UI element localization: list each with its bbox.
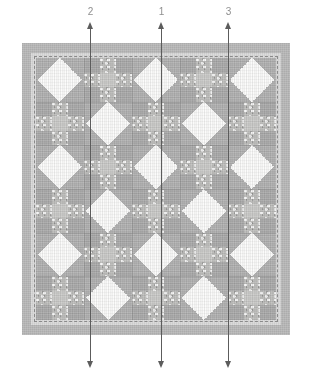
patch-medium — [196, 160, 212, 175]
corner-triangle-tr — [59, 233, 84, 256]
patch-texture — [196, 145, 212, 160]
corner-triangle-br — [59, 166, 84, 189]
patch-texture — [132, 291, 148, 306]
corner-triangle-tl — [180, 189, 205, 212]
arrow-1-line — [161, 28, 162, 362]
quilt-block-grid — [36, 58, 276, 320]
quilt-block-snowball — [228, 233, 276, 277]
corner-triangle-tr — [203, 102, 228, 125]
patch-dark — [164, 305, 180, 320]
patch-dark — [180, 87, 196, 102]
quilt-block-nine-patch — [36, 102, 84, 146]
corner-triangle-tl — [132, 58, 157, 81]
patch-dark — [260, 189, 276, 204]
corner-triangle-tl — [180, 102, 205, 125]
patch-dark — [36, 189, 52, 204]
patch-dark — [164, 102, 180, 117]
patch-dark — [68, 305, 84, 320]
patch-texture — [260, 116, 276, 131]
patch-dark — [132, 131, 148, 146]
patch-dark — [132, 305, 148, 320]
patch-texture — [164, 204, 180, 219]
corner-triangle-tr — [155, 145, 180, 168]
patch-texture — [52, 305, 68, 320]
quilt-outer-border — [22, 43, 290, 335]
corner-triangle-bl — [132, 166, 157, 189]
patch-dark — [36, 276, 52, 291]
quilt-block-snowball — [84, 189, 132, 233]
quilt-block-snowball — [228, 58, 276, 102]
patch-texture — [36, 204, 52, 219]
corner-triangle-bl — [180, 210, 205, 233]
patch-dark — [132, 102, 148, 117]
patch-dark — [116, 174, 132, 189]
patch-dark — [212, 87, 228, 102]
patch-dark — [228, 102, 244, 117]
quilt-block-nine-patch — [84, 233, 132, 277]
patch-dark — [212, 58, 228, 73]
patch-texture — [180, 73, 196, 88]
patch-dark — [212, 174, 228, 189]
quilt-block-nine-patch — [180, 145, 228, 189]
patch-dark — [84, 233, 100, 248]
patch-medium — [244, 204, 260, 219]
arrow-3-head-down-icon — [225, 361, 231, 368]
quilt-block-snowball — [180, 102, 228, 146]
patch-texture — [196, 262, 212, 277]
corner-triangle-tl — [228, 58, 253, 81]
arrow-2-line — [90, 28, 91, 362]
corner-triangle-tr — [107, 189, 132, 212]
arrow-1-head-down-icon — [158, 361, 164, 368]
patch-medium — [52, 291, 68, 306]
patch-dark — [260, 218, 276, 233]
patch-dark — [84, 58, 100, 73]
patch-dark — [260, 102, 276, 117]
patch-texture — [180, 247, 196, 262]
patch-medium — [100, 160, 116, 175]
corner-triangle-br — [107, 210, 132, 233]
patch-texture — [212, 160, 228, 175]
corner-triangle-br — [251, 79, 276, 102]
corner-triangle-bl — [84, 297, 109, 320]
patch-dark — [68, 102, 84, 117]
patch-texture — [196, 87, 212, 102]
patch-dark — [116, 87, 132, 102]
patch-texture — [212, 247, 228, 262]
patch-dark — [164, 276, 180, 291]
patch-texture — [52, 131, 68, 146]
patch-texture — [244, 218, 260, 233]
patch-texture — [228, 116, 244, 131]
corner-triangle-br — [155, 79, 180, 102]
arrow-1-head-up-icon — [158, 22, 164, 29]
patch-dark — [180, 174, 196, 189]
patch-dark — [212, 262, 228, 277]
corner-triangle-br — [107, 297, 132, 320]
patch-medium — [52, 204, 68, 219]
patch-medium — [52, 116, 68, 131]
corner-triangle-bl — [228, 254, 253, 277]
patch-medium — [100, 73, 116, 88]
patch-dark — [36, 218, 52, 233]
patch-dark — [36, 102, 52, 117]
quilt-block-nine-patch — [132, 276, 180, 320]
patch-texture — [100, 174, 116, 189]
quilt-block-snowball — [36, 145, 84, 189]
corner-triangle-br — [59, 254, 84, 277]
quilt-block-nine-patch — [84, 58, 132, 102]
arrow-2-head-down-icon — [87, 361, 93, 368]
patch-dark — [180, 262, 196, 277]
patch-dark — [180, 233, 196, 248]
quilt-block-snowball — [132, 58, 180, 102]
quilt-block-nine-patch — [36, 276, 84, 320]
diagram-canvas: 213 — [0, 0, 313, 371]
corner-triangle-bl — [36, 254, 61, 277]
patch-texture — [244, 131, 260, 146]
patch-dark — [116, 233, 132, 248]
patch-texture — [100, 87, 116, 102]
patch-dark — [84, 145, 100, 160]
corner-triangle-tr — [251, 58, 276, 81]
corner-triangle-tr — [155, 58, 180, 81]
quilt-block-snowball — [180, 189, 228, 233]
quilt-block-snowball — [132, 233, 180, 277]
patch-dark — [180, 145, 196, 160]
